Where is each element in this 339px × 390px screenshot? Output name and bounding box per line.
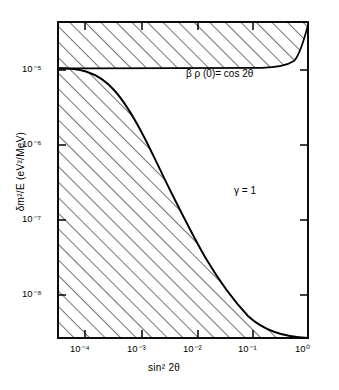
- x-axis-title: sin² 2θ: [148, 362, 180, 373]
- y-tick-label-0: 10⁻⁵: [22, 63, 42, 74]
- x-tick-label-1: 10⁻³: [127, 343, 146, 354]
- x-tick-label-4: 10⁰: [295, 343, 310, 354]
- x-tick-label-2: 10⁻²: [183, 343, 202, 354]
- annotation-gamma-equals-one: γ = 1: [234, 185, 256, 196]
- exclusion-plot-figure: 10⁻⁵ 10⁻⁶ 10⁻⁷ 10⁻⁸ 10⁻⁴ 10⁻³ 10⁻² 10⁻¹ …: [0, 0, 339, 390]
- plot-canvas: [0, 0, 339, 390]
- x-tick-label-3: 10⁻¹: [238, 343, 257, 354]
- annotation-beta-rho-condition: β ρ (0)= cos 2θ: [186, 68, 253, 79]
- y-axis-title: δm²/E (eV²/MeV): [15, 92, 26, 252]
- y-tick-label-3: 10⁻⁸: [22, 288, 42, 299]
- x-tick-label-0: 10⁻⁴: [70, 343, 90, 354]
